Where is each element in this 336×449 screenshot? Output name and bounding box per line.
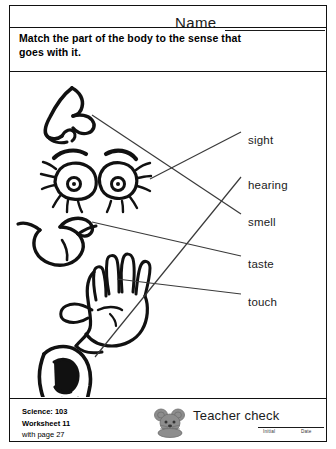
credits-block: Science: 103 Worksheet 11 with page 27 <box>22 406 70 441</box>
credit-page: with page 27 <box>22 429 70 441</box>
credit-subject: Science: 103 <box>22 406 70 418</box>
teacher-check-blank-line[interactable] <box>258 427 324 428</box>
matching-exercise-area: sighthearingsmelltastetouch <box>10 72 326 397</box>
mouse-mascot-icon <box>152 404 188 438</box>
sense-label-smell: smell <box>248 216 276 228</box>
sense-label-hearing: hearing <box>248 179 288 191</box>
match-line-hand-to-touch[interactable] <box>117 279 241 294</box>
sense-label-taste: taste <box>248 258 274 270</box>
match-line-ear-to-hearing[interactable] <box>95 177 241 357</box>
instruction-text: Match the part of the body to the sense … <box>19 31 259 59</box>
footer-divider <box>10 398 326 399</box>
teacher-check-label: Teacher check <box>193 408 279 423</box>
initial-label: Initial <box>263 429 275 434</box>
name-label: Name <box>175 15 217 31</box>
name-blank-line[interactable] <box>225 16 325 31</box>
footer-bottom-divider <box>10 441 326 442</box>
worksheet-page: Name Match the part of the body to the s… <box>0 0 336 449</box>
sense-label-touch: touch <box>248 296 277 308</box>
match-line-nose-to-smell[interactable] <box>92 115 241 214</box>
sense-label-sight: sight <box>248 134 273 146</box>
credit-worksheet: Worksheet 11 <box>22 418 70 430</box>
match-line-tongue-to-taste[interactable] <box>92 222 241 256</box>
match-line-eyes-to-sight[interactable] <box>150 132 241 179</box>
header-divider <box>10 27 326 28</box>
matching-lines <box>10 72 326 397</box>
date-label: Date <box>301 429 312 434</box>
